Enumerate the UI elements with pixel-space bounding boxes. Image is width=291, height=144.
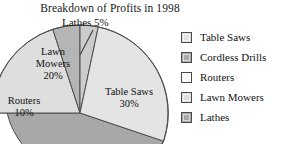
legend-item-routers: Routers — [181, 67, 291, 87]
legend-item-table-saws: Table Saws — [181, 27, 291, 47]
legend-item-lathes: Lathes — [181, 107, 291, 127]
legend-label: Routers — [200, 71, 234, 84]
legend-swatch-icon — [181, 32, 192, 43]
legend-label: Lawn Mowers — [200, 91, 264, 104]
legend-label: Table Saws — [200, 31, 250, 44]
legend-swatch-icon — [181, 52, 192, 63]
legend-swatch-icon — [181, 72, 192, 83]
legend-swatch-icon — [181, 92, 192, 103]
legend-swatch-icon — [181, 112, 192, 123]
legend-item-lawn-mowers: Lawn Mowers — [181, 87, 291, 107]
legend: Table Saws Cordless Drills Routers Lawn … — [181, 27, 291, 127]
legend-label: Cordless Drills — [200, 51, 266, 64]
pie-chart-figure: Breakdown of Profits in 1998 Lathes 5% L… — [0, 0, 291, 144]
legend-item-cordless-drills: Cordless Drills — [181, 47, 291, 67]
legend-label: Lathes — [200, 111, 229, 124]
pie-chart: Lathes 5% Lawn Mowers 20% Routers 10% Ta… — [0, 0, 180, 144]
lathes-callout-label: Lathes 5% — [62, 16, 109, 29]
